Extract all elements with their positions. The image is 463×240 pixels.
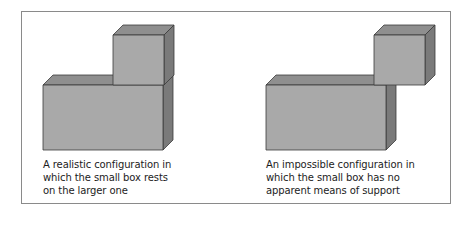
caption-line: A realistic configuration in (43, 158, 171, 171)
caption-line: which the small box has no (266, 171, 415, 184)
caption-line: which the small box rests (43, 171, 171, 184)
realistic-small-box (113, 25, 174, 85)
realistic-large-box (43, 75, 173, 150)
realistic-caption: A realistic configuration in which the s… (43, 158, 171, 197)
impossible-large-box (266, 75, 396, 150)
impossible-small-box (374, 25, 435, 85)
impossible-caption: An impossible configuration in which the… (266, 158, 415, 197)
caption-line: on the larger one (43, 184, 171, 197)
caption-line: apparent means of support (266, 184, 415, 197)
caption-line: An impossible configuration in (266, 158, 415, 171)
